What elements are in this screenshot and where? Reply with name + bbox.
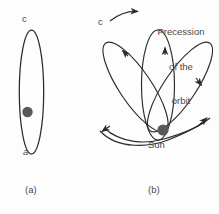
panel-a-periapsis-label: a (23, 146, 28, 157)
panel-b-caption: (b) (148, 184, 160, 195)
precession-annotation-line3: orbit (146, 95, 216, 107)
orbit-arrow-lower-left (102, 126, 110, 132)
sun-label: Sun (148, 139, 165, 150)
precession-direction-arrow (110, 11, 138, 21)
panel-a-apoapsis-label: c (22, 13, 27, 24)
precession-annotation-line1: Precession (146, 26, 216, 38)
precession-figure: c a (a) c Sun (b) Precession of the orbi… (0, 0, 219, 214)
panel-a-caption: (a) (25, 184, 37, 195)
precession-annotation: Precession of the orbit (146, 3, 216, 130)
sun-dot-panel-a (22, 107, 32, 117)
precession-annotation-line2: of the (146, 61, 216, 73)
panel-b-apoapsis-label: c (98, 16, 103, 27)
panel-a-orbit (19, 30, 43, 154)
